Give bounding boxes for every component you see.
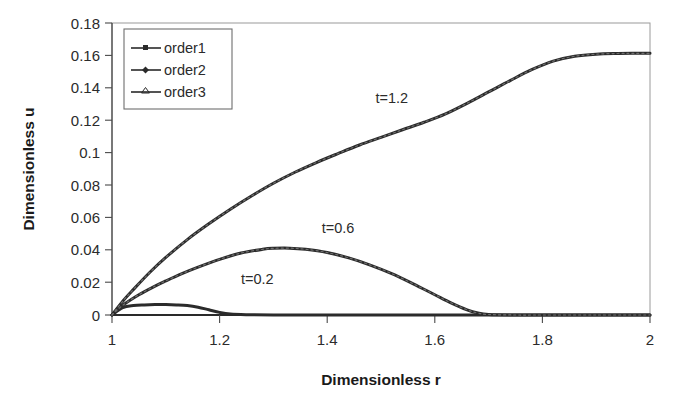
x-tick-label: 1.8	[532, 331, 553, 348]
x-axis-title: Dimensionless r	[321, 371, 441, 388]
x-tick-label: 1.2	[209, 331, 230, 348]
annotation-t1-2: t=1.2	[375, 90, 408, 106]
y-tick-label: 0.18	[71, 15, 100, 32]
annotation-t0-6: t=0.6	[322, 220, 355, 236]
x-axis-tick-labels: 1 1.2 1.4 1.6 1.8 2	[108, 331, 654, 348]
legend[interactable]: order1 order2 order3	[124, 29, 232, 109]
y-tick-label: 0.12	[71, 112, 100, 129]
legend-label-order3: order3	[164, 84, 206, 100]
y-axis-tick-labels: 0.18 0.16 0.14 0.12 0.1 0.08 0.06 0.04 0…	[71, 15, 100, 324]
y-tick-label: 0.04	[71, 241, 100, 258]
x-tick-label: 1.6	[424, 331, 445, 348]
legend-label-order1: order1	[164, 40, 206, 56]
y-axis-title: Dimensionless u	[20, 107, 37, 230]
x-tick-label: 2	[646, 331, 654, 348]
y-axis-ticks	[105, 23, 112, 315]
x-tick-label: 1.4	[317, 331, 338, 348]
x-tick-label: 1	[108, 331, 116, 348]
chart-figure: 0.18 0.16 0.14 0.12 0.1 0.08 0.06 0.04 0…	[0, 0, 685, 401]
square-marker-icon	[143, 45, 148, 50]
y-tick-label: 0.06	[71, 209, 100, 226]
y-tick-label: 0.1	[79, 144, 100, 161]
y-tick-label: 0.16	[71, 47, 100, 64]
y-tick-label: 0	[92, 307, 100, 324]
annotation-t0-2: t=0.2	[241, 271, 274, 287]
legend-label-order2: order2	[164, 62, 206, 78]
y-tick-label: 0.14	[71, 79, 100, 96]
y-tick-label: 0.08	[71, 177, 100, 194]
y-tick-label: 0.02	[71, 274, 100, 291]
